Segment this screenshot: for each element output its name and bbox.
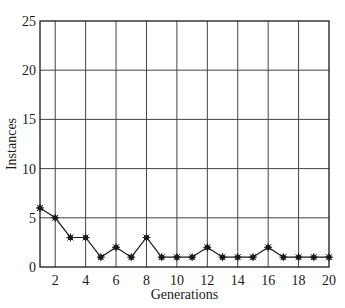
star-marker-icon xyxy=(310,253,318,261)
x-tick-label: 14 xyxy=(231,273,245,288)
x-tick-label: 12 xyxy=(200,273,214,288)
y-tick-label: 15 xyxy=(22,112,36,127)
x-tick-label: 18 xyxy=(292,273,306,288)
star-marker-icon xyxy=(264,243,272,251)
star-marker-icon xyxy=(36,204,44,212)
x-tick-label: 16 xyxy=(261,273,275,288)
x-tick-label: 20 xyxy=(322,273,336,288)
y-axis-label: Instances xyxy=(4,118,19,170)
x-tick-label: 8 xyxy=(143,273,150,288)
plot-frame xyxy=(40,21,329,267)
star-marker-icon xyxy=(127,253,135,261)
line-chart: 0510152025 2468101214161820 Generations … xyxy=(0,0,345,308)
y-tick-label: 10 xyxy=(22,162,36,177)
star-marker-icon xyxy=(249,253,257,261)
x-tick-label: 6 xyxy=(113,273,120,288)
y-tick-label: 20 xyxy=(22,63,36,78)
gridlines xyxy=(40,21,329,267)
x-tick-label: 10 xyxy=(170,273,184,288)
series-line xyxy=(40,208,329,257)
star-marker-icon xyxy=(158,253,166,261)
series-markers xyxy=(36,204,333,261)
star-marker-icon xyxy=(142,233,150,241)
star-marker-icon xyxy=(188,253,196,261)
star-marker-icon xyxy=(173,253,181,261)
y-tick-label: 25 xyxy=(22,14,36,29)
y-tick-label: 0 xyxy=(29,260,36,275)
star-marker-icon xyxy=(97,253,105,261)
star-marker-icon xyxy=(234,253,242,261)
star-marker-icon xyxy=(51,214,59,222)
x-tick-label: 4 xyxy=(82,273,89,288)
star-marker-icon xyxy=(325,253,333,261)
star-marker-icon xyxy=(203,243,211,251)
star-marker-icon xyxy=(66,233,74,241)
x-axis-ticks: 2468101214161820 xyxy=(52,273,336,288)
x-axis-label: Generations xyxy=(151,287,219,302)
star-marker-icon xyxy=(82,233,90,241)
star-marker-icon xyxy=(295,253,303,261)
star-marker-icon xyxy=(279,253,287,261)
star-marker-icon xyxy=(219,253,227,261)
y-axis-ticks: 0510152025 xyxy=(22,14,36,275)
x-tick-label: 2 xyxy=(52,273,59,288)
y-tick-label: 5 xyxy=(29,211,36,226)
star-marker-icon xyxy=(112,243,120,251)
